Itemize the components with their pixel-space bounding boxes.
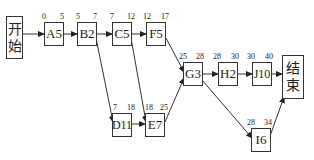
node-j: J10 [252,62,272,86]
node-f-es: 12 [143,13,151,21]
end-node: 结 束 [282,55,304,99]
node-f-label: F5 [149,26,163,42]
node-i-es: 28 [247,119,255,127]
node-d-es: 7 [113,104,117,112]
node-f-ef: 17 [161,13,169,21]
node-j-label: J10 [254,67,271,82]
node-j-es: 30 [247,53,255,61]
end-label-line1: 结 [286,60,300,77]
node-c-ef: 12 [127,13,135,21]
node-c: C5 [112,22,132,46]
node-g: G3 [183,62,203,86]
node-i: I6 [251,128,271,152]
start-label-line2: 始 [8,38,22,55]
node-b-es: 5 [76,13,80,21]
node-e-es: 18 [145,104,153,112]
edge-b-d [96,38,113,122]
node-d: D11 [112,113,132,137]
node-d-ef: 18 [127,104,135,112]
node-h: H2 [218,62,238,86]
node-j-ef: 40 [265,53,273,61]
node-a-ef: 5 [60,13,64,21]
node-b-label: B2 [79,26,94,42]
node-b: B2 [77,22,97,46]
node-a: A5 [44,22,64,46]
node-c-label: C5 [114,26,129,42]
edge-i-end [270,97,284,136]
node-e-label: E7 [148,117,162,133]
node-g-es: 25 [179,53,187,61]
node-d-label: D11 [112,118,132,133]
node-a-label: A5 [46,26,62,42]
start-label-line1: 开 [8,21,22,38]
node-h-es: 28 [213,53,221,61]
node-c-es: 7 [110,13,114,21]
node-e: E7 [145,113,165,137]
end-label-line2: 束 [286,77,300,94]
node-h-ef: 30 [231,53,239,61]
edge-g-i [202,80,252,138]
node-h-label: H2 [220,66,236,82]
node-g-ef: 28 [196,53,204,61]
node-i-label: I6 [256,132,267,148]
edge-e-g [165,78,184,122]
node-f: F5 [146,22,166,46]
start-node: 开 始 [6,16,23,59]
node-e-ef: 25 [160,104,168,112]
node-i-ef: 34 [264,119,272,127]
node-a-es: 0 [42,13,46,21]
node-b-ef: 7 [93,13,97,21]
node-g-label: G3 [185,66,201,82]
